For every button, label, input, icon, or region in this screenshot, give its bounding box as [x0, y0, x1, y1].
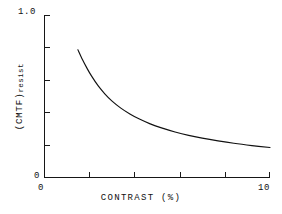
chart-plot-area: [0, 0, 282, 214]
y-axis-max-label: 1.0: [18, 8, 36, 17]
y-axis-ticks: [45, 16, 51, 146]
x-axis-ticks: [90, 172, 270, 178]
x-axis-max-label: 10: [258, 184, 270, 193]
axes-group: [44, 15, 270, 178]
chart-figure: 1.0 0 0 10 CONTRAST (%) (CMTF)resist: [0, 0, 282, 214]
x-axis-min-label: 0: [38, 184, 44, 193]
y-axis-title-subscript: resist: [17, 63, 25, 92]
y-axis-min-label: 0: [34, 172, 40, 181]
y-axis-title: (CMTF)resist: [16, 32, 26, 162]
x-axis-title: CONTRAST (%): [0, 194, 282, 203]
y-axis-title-base: (CMTF): [15, 93, 25, 131]
data-series-curve: [78, 50, 270, 148]
